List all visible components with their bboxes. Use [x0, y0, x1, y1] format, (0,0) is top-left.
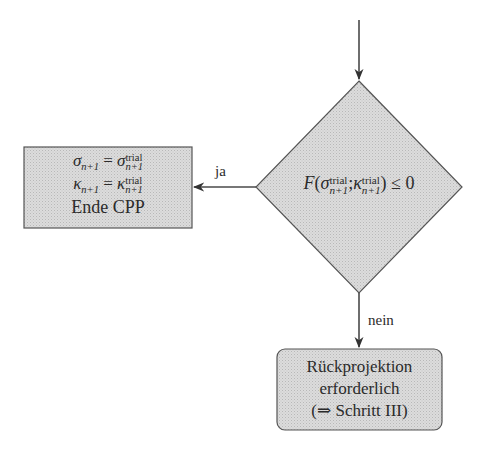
stress-symbol: σ [117, 151, 125, 170]
stress-symbol: σ [321, 173, 330, 193]
decision-condition: F(σtrialn+1;κtrialn+1) ≤ 0 [262, 174, 456, 195]
equals-sign: = [103, 174, 113, 193]
hardening-update-line: κn+1 = κtrialn+1 [24, 175, 192, 198]
hardening-symbol: κ [117, 174, 125, 193]
equals-sign: = [103, 151, 113, 170]
edge-label-yes: ja [215, 163, 226, 180]
return-mapping-text: Rückprojektion erforderlich (⇒ Schritt I… [277, 356, 442, 422]
step-subscript: n+1 [362, 186, 381, 195]
edge-label-no: nein [368, 312, 394, 329]
return-mapping-line-3: (⇒ Schritt III) [277, 400, 442, 422]
hardening-symbol: κ [353, 173, 362, 193]
step-subscript: n+1 [81, 161, 99, 172]
step-subscript: n+1 [81, 184, 99, 195]
step-subscript: n+1 [329, 186, 348, 195]
stress-update-line: σn+1 = σtrialn+1 [24, 152, 192, 175]
step-subscript: n+1 [125, 186, 143, 195]
relation: ≤ 0 [391, 173, 414, 193]
step-subscript: n+1 [125, 163, 143, 172]
end-cpp-label: Ende CPP [24, 198, 192, 217]
return-mapping-line-2: erforderlich [277, 378, 442, 400]
end-cpp-text: σn+1 = σtrialn+1 κn+1 = κtrialn+1 Ende C… [24, 152, 192, 217]
yield-function-symbol: F [304, 173, 315, 193]
return-mapping-line-1: Rückprojektion [277, 356, 442, 378]
